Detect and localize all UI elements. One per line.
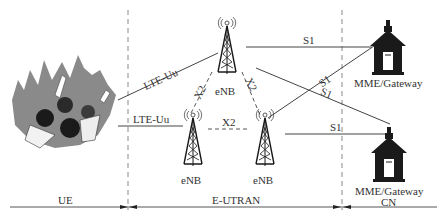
mme-gateway-bottom-icon: [371, 127, 407, 182]
s1-label-bottom: S1: [330, 122, 342, 133]
lte-architecture-diagram: LTE-Uu LTE-Uu X2 X2 X2 S1 S1 S1 S1 eNB e…: [0, 0, 447, 219]
enb-top-tower-icon: [218, 17, 236, 74]
x2-label-bottom: X2: [222, 117, 235, 128]
enb-top-label: eNB: [215, 86, 235, 97]
region-label-cn: CN: [381, 197, 396, 208]
axis-arrow-eutran-left: [129, 205, 137, 209]
ue-crowd-image: [12, 55, 116, 148]
enb-right-tower-icon: [256, 109, 274, 166]
axis-arrow-cn-left: [343, 205, 351, 209]
mme-gateway-top-label: MME/Gateway: [354, 78, 422, 89]
axis-arrow-ue-right: [120, 205, 128, 209]
enb-left-tower-icon: [184, 109, 202, 166]
s1-label-top: S1: [303, 35, 315, 46]
axis-arrow-eutran-right: [333, 205, 341, 209]
region-label-eutran: E-UTRAN: [212, 195, 260, 206]
enb-right-label: eNB: [253, 175, 273, 186]
lte-uu-label-left: LTE-Uu: [133, 114, 169, 125]
enb-left-label: eNB: [181, 175, 201, 186]
mme-gateway-top-icon: [370, 20, 406, 75]
region-label-ue: UE: [58, 195, 73, 206]
